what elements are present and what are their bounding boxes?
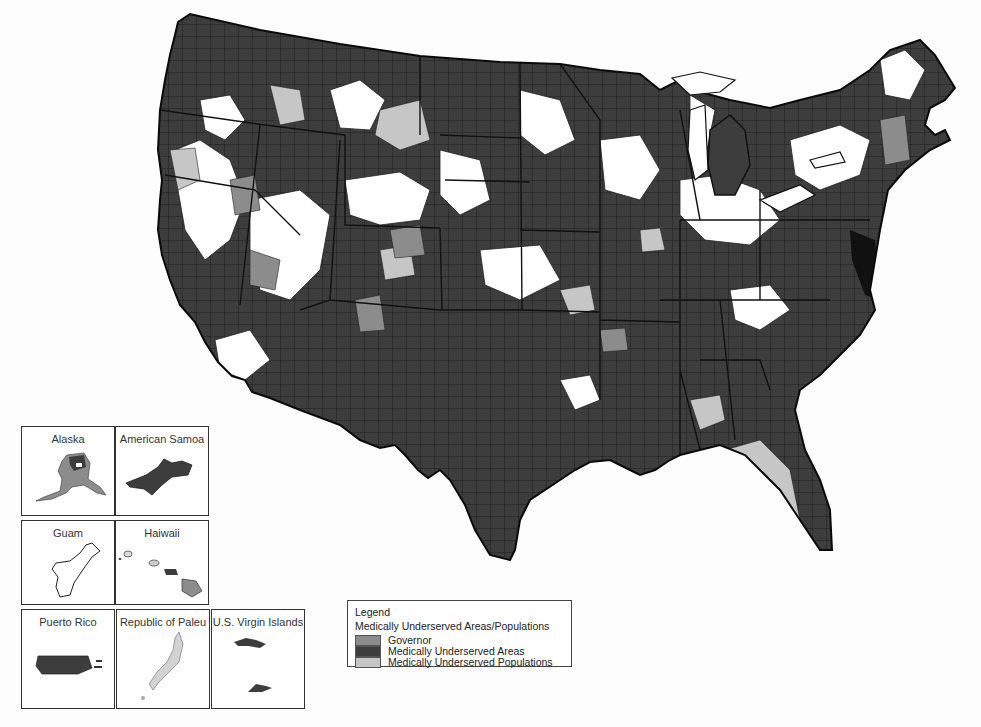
legend-swatch bbox=[355, 657, 381, 668]
alaska-shape bbox=[22, 427, 116, 517]
legend-label: Medically Underserved Populations bbox=[388, 657, 553, 668]
inset-us-virgin-islands: U.S. Virgin Islands bbox=[211, 609, 305, 709]
legend-subtitle: Medically Underserved Areas/Populations bbox=[355, 619, 564, 634]
inset-american-samoa: American Samoa bbox=[115, 426, 209, 516]
legend-item-mup: Medically Underserved Populations bbox=[355, 657, 564, 668]
legend: Legend Medically Underserved Areas/Popul… bbox=[347, 600, 572, 667]
inset-puerto-rico: Puerto Rico bbox=[21, 609, 115, 709]
inset-alaska: Alaska bbox=[21, 426, 115, 516]
inset-republic-of-palau: Republic of Paleu bbox=[116, 609, 210, 709]
legend-swatch bbox=[355, 635, 381, 646]
hawaii-shape bbox=[116, 521, 210, 606]
palau-shape bbox=[117, 610, 211, 710]
legend-title: Legend bbox=[355, 605, 564, 619]
virgin-islands-shape bbox=[212, 610, 306, 710]
inset-guam: Guam bbox=[21, 520, 115, 605]
inset-hawaii: Haiwaii bbox=[115, 520, 209, 605]
legend-swatch bbox=[355, 646, 381, 657]
puerto-rico-shape bbox=[22, 610, 116, 710]
guam-shape bbox=[22, 521, 116, 606]
american-samoa-shape bbox=[116, 427, 210, 517]
